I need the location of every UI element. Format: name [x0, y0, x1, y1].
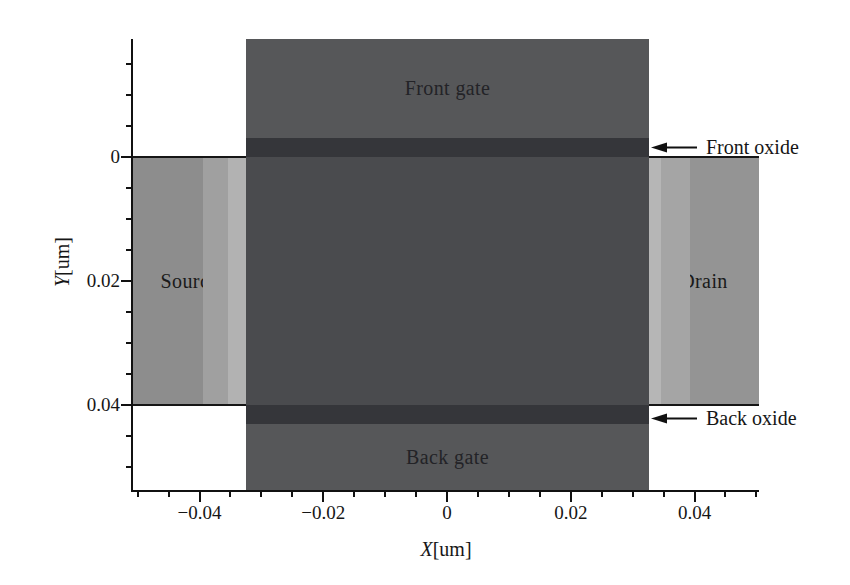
front-oxide-annotation: Front oxide [651, 136, 799, 159]
source-contact-stripe-light [228, 158, 246, 404]
x-axis-minor-tick [755, 491, 757, 497]
x-axis-tick-label: −0.04 [178, 502, 222, 524]
left-arrow-icon [651, 413, 667, 423]
x-axis-tick-label: 0.04 [678, 502, 711, 524]
x-axis-major-tick [199, 491, 201, 502]
x-axis-tick-label: −0.02 [301, 502, 345, 524]
back-gate-region: Back gate [246, 424, 649, 491]
y-axis-title: Y[um] [51, 237, 74, 287]
y-axis-minor-tick [126, 342, 131, 344]
channel-body-region [246, 157, 649, 405]
x-axis-title-var: X [420, 538, 432, 560]
back-oxide-annotation: Back oxide [651, 407, 797, 430]
x-axis-minor-tick [229, 491, 231, 497]
y-axis-minor-tick [126, 218, 131, 220]
y-axis-minor-tick [126, 187, 131, 189]
x-axis-tick-label: 0.02 [554, 502, 587, 524]
device-structure-figure: Front gate Back gate Source Drain −0.04−… [0, 0, 850, 585]
y-axis-tick-label: 0 [58, 146, 120, 168]
drain-region: Drain [649, 156, 759, 406]
x-axis-minor-tick [477, 491, 479, 497]
back-gate-label: Back gate [406, 446, 489, 469]
front-gate-label: Front gate [405, 77, 491, 100]
x-axis-minor-tick [353, 491, 355, 497]
x-axis-title: X[um] [420, 538, 471, 561]
x-axis-title-unit: [um] [433, 538, 472, 560]
y-axis-minor-tick [126, 373, 131, 375]
front-oxide-region [246, 138, 649, 157]
drain-contact-stripe-light [649, 158, 661, 404]
x-axis-major-tick [446, 491, 448, 502]
y-axis-minor-tick [126, 466, 131, 468]
arrow-line [667, 146, 697, 148]
y-axis-major-tick [121, 156, 131, 158]
x-axis-minor-tick [384, 491, 386, 497]
x-axis-minor-tick [601, 491, 603, 497]
left-arrow-icon [651, 142, 667, 152]
x-axis-minor-tick [539, 491, 541, 497]
x-axis-minor-tick [260, 491, 262, 497]
x-axis-minor-tick [663, 491, 665, 497]
x-axis-major-tick [570, 491, 572, 502]
x-axis-minor-tick [724, 491, 726, 497]
x-axis-line [131, 490, 759, 492]
source-region: Source [133, 156, 246, 406]
y-axis-minor-tick [126, 311, 131, 313]
back-oxide-region [246, 405, 649, 424]
y-axis-minor-tick [126, 63, 131, 65]
y-axis-title-var: Y [51, 276, 73, 287]
source-contact-stripe-mid [203, 158, 228, 404]
front-oxide-annotation-label: Front oxide [706, 136, 799, 159]
y-axis-major-tick [121, 404, 131, 406]
x-axis-minor-tick [508, 491, 510, 497]
y-axis-minor-tick [126, 435, 131, 437]
y-axis-line [131, 39, 133, 492]
x-axis-tick-label: 0 [442, 502, 452, 524]
x-axis-minor-tick [632, 491, 634, 497]
x-axis-minor-tick [291, 491, 293, 497]
x-axis-major-tick [322, 491, 324, 502]
x-axis-minor-tick [137, 491, 139, 497]
y-axis-minor-tick [126, 94, 131, 96]
y-axis-major-tick [121, 280, 131, 282]
front-gate-region: Front gate [246, 39, 649, 138]
y-axis-tick-label: 0.04 [58, 394, 120, 416]
x-axis-minor-tick [415, 491, 417, 497]
y-axis-title-unit: [um] [51, 237, 73, 276]
x-axis-major-tick [694, 491, 696, 502]
x-axis-minor-tick [168, 491, 170, 497]
y-axis-minor-tick [126, 125, 131, 127]
back-oxide-annotation-label: Back oxide [706, 407, 797, 430]
y-axis-minor-tick [126, 249, 131, 251]
drain-contact-stripe-mid [661, 158, 690, 404]
arrow-line [667, 417, 697, 419]
